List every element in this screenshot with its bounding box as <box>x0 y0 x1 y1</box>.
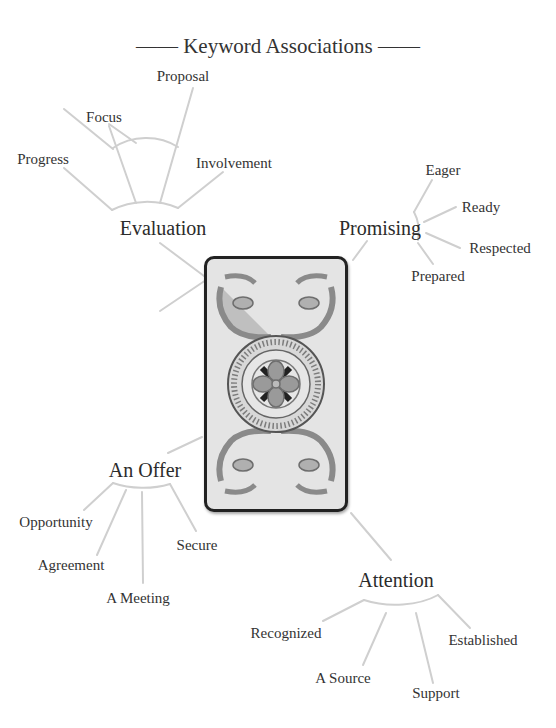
keyword-respected: Respected <box>469 240 531 257</box>
keyword-established: Established <box>448 632 517 649</box>
tarot-card <box>204 256 348 512</box>
keyword-opportunity: Opportunity <box>19 514 92 531</box>
hub-attention: Attention <box>358 569 434 592</box>
hub-evaluation: Evaluation <box>120 217 207 240</box>
keyword-a-source: A Source <box>315 670 370 687</box>
keyword-a-meeting: A Meeting <box>106 590 170 607</box>
ornate-card-back-icon <box>207 259 345 509</box>
keyword-proposal: Proposal <box>157 68 210 85</box>
keyword-focus: Focus <box>86 109 122 126</box>
keyword-eager: Eager <box>426 162 461 179</box>
keyword-secure: Secure <box>177 537 218 554</box>
keyword-recognized: Recognized <box>251 625 322 642</box>
keyword-prepared: Prepared <box>411 268 464 285</box>
keyword-ready: Ready <box>462 199 500 216</box>
hub-promising: Promising <box>339 217 421 240</box>
keyword-agreement: Agreement <box>38 557 105 574</box>
hub-an-offer: An Offer <box>109 459 181 482</box>
keyword-support: Support <box>412 685 460 702</box>
keyword-progress: Progress <box>17 151 69 168</box>
keyword-involvement: Involvement <box>196 155 272 172</box>
